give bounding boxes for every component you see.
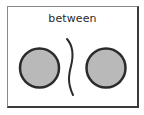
wavy-line: [67, 39, 73, 95]
right-circle: [87, 49, 126, 88]
left-circle: [20, 49, 59, 88]
between-illustration: [0, 0, 144, 115]
